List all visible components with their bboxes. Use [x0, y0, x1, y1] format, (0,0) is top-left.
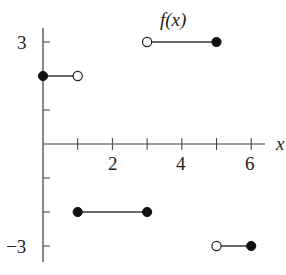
open-endpoint	[143, 37, 152, 46]
function-label: f(x)	[160, 9, 186, 31]
open-endpoint	[212, 241, 221, 250]
closed-endpoint	[38, 71, 47, 80]
open-endpoint	[73, 71, 82, 80]
x-tick-label-2: 2	[108, 153, 118, 174]
y-tick-label-neg3: −3	[6, 236, 26, 257]
x-tick-label-4: 4	[176, 153, 186, 174]
piecewise-function-graph: 3 −3 2 4 6 x f(x)	[0, 0, 286, 275]
closed-endpoint	[73, 207, 82, 216]
closed-endpoint	[212, 37, 221, 46]
y-tick-label-3: 3	[17, 32, 27, 53]
closed-endpoint	[143, 207, 152, 216]
x-tick-label-6: 6	[245, 153, 255, 174]
x-axis-label: x	[275, 133, 285, 154]
closed-endpoint	[247, 241, 256, 250]
